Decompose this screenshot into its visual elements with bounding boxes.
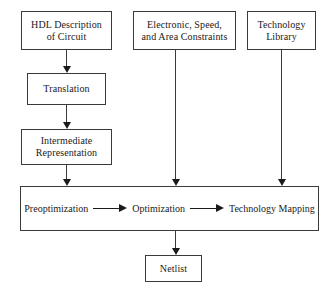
stage-optimization: Optimization [132, 203, 185, 215]
arrow-head-icon [172, 248, 180, 255]
arrow-shaft [190, 208, 218, 209]
stage-preoptimization: Preoptimization [24, 203, 88, 215]
synthesis-flow-diagram: HDL Description of Circuit Electronic, S… [0, 0, 335, 295]
connector-shaft [281, 50, 282, 179]
arrow-head-icon [119, 204, 127, 212]
arrow-optimization-to-technology-mapping [190, 204, 224, 214]
stage-row: Preoptimization Optimization Technology … [21, 187, 318, 230]
node-intermediate-representation: Intermediate Representation [21, 129, 112, 165]
arrow-head-icon [172, 179, 180, 186]
arrow-head-icon [216, 204, 224, 212]
node-translation: Translation [27, 73, 106, 105]
arrow-head-icon [278, 179, 286, 186]
arrow-head-icon [63, 122, 71, 129]
connector-shaft [66, 105, 67, 122]
connector-shaft [175, 231, 176, 248]
arrow-head-icon [63, 66, 71, 73]
node-hdl-description: HDL Description of Circuit [21, 11, 112, 50]
connector-shaft [66, 50, 67, 66]
arrow-shaft [93, 208, 121, 209]
node-technology-library: Technology Library [247, 11, 316, 50]
node-constraints: Electronic, Speed, and Area Constraints [133, 11, 236, 50]
connector-shaft [66, 165, 67, 179]
arrow-preoptimization-to-optimization [93, 204, 127, 214]
stage-technology-mapping: Technology Mapping [229, 203, 315, 215]
connector-shaft [175, 50, 176, 179]
arrow-head-icon [63, 179, 71, 186]
node-netlist: Netlist [145, 255, 202, 282]
node-main-synthesis-bar: Preoptimization Optimization Technology … [20, 186, 319, 231]
